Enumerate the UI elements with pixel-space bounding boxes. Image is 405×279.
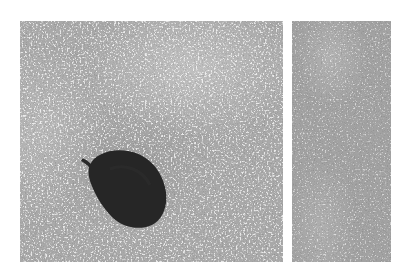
speckle-texture xyxy=(292,21,391,262)
seed-object xyxy=(80,149,170,231)
photo-panel-left xyxy=(20,21,283,262)
photo-panel-right xyxy=(292,21,391,262)
